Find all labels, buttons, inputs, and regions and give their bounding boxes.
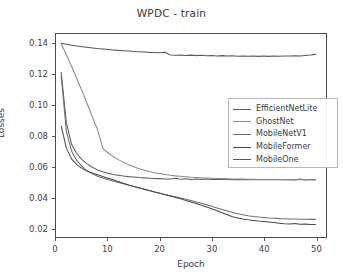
legend-item-efficientnetlite[interactable]: EfficientNetLite — [233, 103, 334, 116]
x-tick-mark — [212, 238, 213, 241]
legend-line-icon — [233, 159, 251, 160]
y-tick-label: 0.12 — [0, 69, 48, 79]
x-tick-mark — [55, 238, 56, 241]
legend-label: GhostNet — [256, 118, 294, 126]
chart-legend: EfficientNetLiteGhostNetMobileNetV1Mobil… — [228, 98, 338, 168]
y-tick-label: 0.08 — [0, 131, 48, 141]
y-tick-label: 0.04 — [0, 193, 48, 203]
x-tick-label: 0 — [52, 244, 57, 254]
x-tick-mark — [107, 238, 108, 241]
x-tick-mark — [264, 238, 265, 241]
y-tick-label: 0.06 — [0, 162, 48, 172]
chart-title: WPDC - train — [0, 7, 343, 19]
x-tick-label: 10 — [102, 244, 113, 254]
legend-item-mobilenetv1[interactable]: MobileNetV1 — [233, 128, 334, 141]
legend-line-icon — [233, 121, 251, 122]
legend-line-icon — [233, 147, 251, 148]
legend-label: MobileNetV1 — [256, 130, 307, 138]
legend-item-mobileone[interactable]: MobileOne — [233, 153, 334, 166]
y-tick-label: 0.02 — [0, 224, 48, 234]
x-tick-mark — [317, 238, 318, 241]
legend-label: MobileOne — [256, 156, 299, 164]
legend-item-mobileformer[interactable]: MobileFormer — [233, 141, 334, 154]
y-tick-label: 0.10 — [0, 100, 48, 110]
legend-item-ghostnet[interactable]: GhostNet — [233, 116, 334, 129]
chart-figure: WPDC - train Losses 0.020.040.060.080.10… — [0, 0, 343, 278]
x-tick-label: 50 — [311, 244, 322, 254]
x-tick-label: 30 — [207, 244, 218, 254]
legend-label: MobileFormer — [256, 143, 311, 151]
x-tick-label: 20 — [154, 244, 165, 254]
legend-line-icon — [233, 134, 251, 135]
x-tick-label: 40 — [259, 244, 270, 254]
x-tick-mark — [160, 238, 161, 241]
y-tick-label: 0.14 — [0, 38, 48, 48]
legend-line-icon — [233, 109, 251, 110]
series-line-mobileone — [61, 43, 315, 56]
legend-label: EfficientNetLite — [256, 105, 317, 113]
x-axis-label: Epoch — [55, 259, 327, 269]
